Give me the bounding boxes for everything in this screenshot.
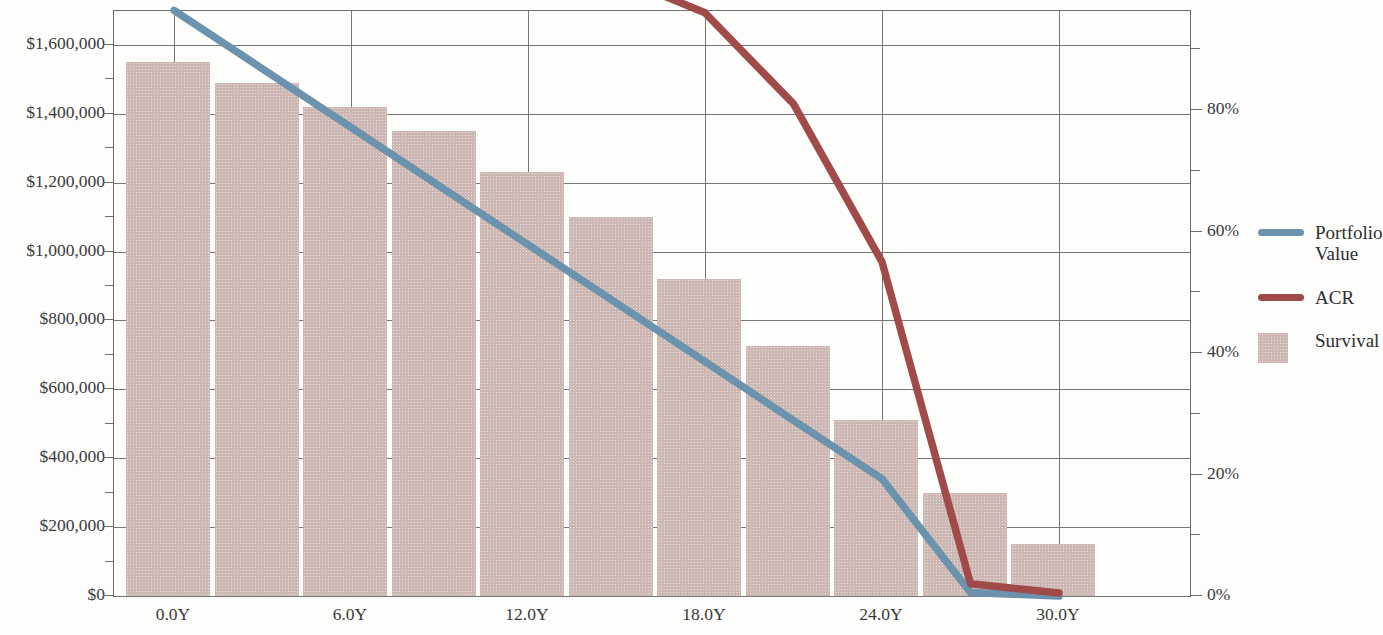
legend-box-swatch — [1258, 333, 1288, 363]
y-axis-left-tick-label: $600,000 — [0, 377, 105, 398]
y-axis-right-minor-tick — [1191, 534, 1200, 535]
y-axis-left-minor-tick — [105, 285, 113, 286]
y-axis-right-tick-label: 80% — [1207, 98, 1239, 119]
legend-label: ACR — [1315, 287, 1354, 308]
y-axis-left-tick — [103, 319, 113, 320]
legend-line-swatch — [1258, 294, 1304, 301]
x-axis-tick-label: 24.0Y — [859, 604, 902, 625]
y-axis-left-tick — [103, 388, 113, 389]
y-axis-left-minor-tick — [105, 423, 113, 424]
y-axis-left-minor-tick — [105, 354, 113, 355]
line-series-group — [114, 11, 1192, 598]
legend-swatch-line — [1258, 287, 1304, 301]
y-axis-left-minor-tick — [105, 78, 113, 79]
y-axis-left-tick — [103, 595, 113, 596]
x-axis-tick-label: 30.0Y — [1036, 604, 1079, 625]
y-axis-left-tick — [103, 182, 113, 183]
y-axis-left-tick — [103, 251, 113, 252]
y-axis-right-tick — [1191, 109, 1202, 110]
y-axis-right-tick-label: 0% — [1207, 584, 1230, 605]
line-series-acr — [174, 0, 1059, 593]
x-axis-tick-label: 12.0Y — [505, 604, 548, 625]
y-axis-left-tick — [103, 457, 113, 458]
plot-area — [113, 10, 1191, 597]
y-axis-left-tick — [103, 113, 113, 114]
y-axis-left-minor-tick — [105, 561, 113, 562]
y-axis-left-tick-label: $200,000 — [0, 515, 105, 536]
y-axis-right-tick — [1191, 595, 1202, 596]
y-axis-right-tick — [1191, 474, 1202, 475]
y-axis-right-tick-label: 20% — [1207, 463, 1239, 484]
legend-label: Portfolio Value — [1315, 222, 1383, 265]
x-axis-tick-label: 6.0Y — [333, 604, 368, 625]
y-axis-left-tick-label: $400,000 — [0, 446, 105, 467]
y-axis-right-tick-label: 60% — [1207, 220, 1239, 241]
legend-line-swatch — [1258, 229, 1304, 236]
x-axis-tick-label: 0.0Y — [156, 604, 191, 625]
legend-swatch-line — [1258, 222, 1304, 236]
legend-swatch-box — [1258, 330, 1304, 363]
chart-legend: Portfolio ValueACRSurvival — [1258, 222, 1383, 385]
legend-item[interactable]: Portfolio Value — [1258, 222, 1383, 265]
y-axis-right-tick-label: 40% — [1207, 341, 1239, 362]
y-axis-right-minor-tick — [1191, 413, 1200, 414]
legend-item[interactable]: ACR — [1258, 287, 1383, 308]
line-series-portfolio-value — [174, 10, 1059, 596]
y-axis-right-tick — [1191, 352, 1202, 353]
y-axis-left-tick-label: $1,600,000 — [0, 33, 105, 54]
y-axis-right-minor-tick — [1191, 170, 1200, 171]
x-axis-tick-label: 18.0Y — [682, 604, 725, 625]
y-axis-left-tick-label: $800,000 — [0, 308, 105, 329]
chart-canvas: $0$200,000$400,000$600,000$800,000$1,000… — [0, 0, 1383, 635]
y-axis-right-tick — [1191, 231, 1202, 232]
y-axis-left-tick — [103, 44, 113, 45]
y-axis-left-tick-label: $1,000,000 — [0, 240, 105, 261]
y-axis-left-tick-label: $1,400,000 — [0, 102, 105, 123]
legend-label: Survival — [1315, 330, 1379, 351]
y-axis-right-minor-tick — [1191, 291, 1200, 292]
y-axis-left-minor-tick — [105, 216, 113, 217]
y-axis-right-minor-tick — [1191, 48, 1200, 49]
y-axis-left-minor-tick — [105, 492, 113, 493]
y-axis-left-minor-tick — [105, 147, 113, 148]
legend-item[interactable]: Survival — [1258, 330, 1383, 363]
y-axis-left-tick-label: $1,200,000 — [0, 171, 105, 192]
y-axis-left-tick-label: $0 — [0, 584, 105, 605]
y-axis-left-tick — [103, 526, 113, 527]
